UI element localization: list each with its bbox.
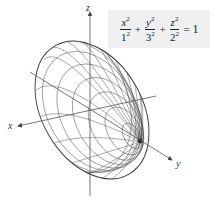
term-z: z2 22 bbox=[170, 16, 180, 42]
equals-sign: = bbox=[183, 23, 189, 35]
y-axis bbox=[30, 72, 172, 160]
y-axis-label: y bbox=[176, 158, 180, 169]
z-axis-label: z bbox=[86, 2, 90, 13]
x-axis-label: x bbox=[8, 120, 12, 131]
term-x: x2 12 bbox=[120, 16, 130, 42]
plus-sign: + bbox=[135, 23, 141, 35]
ellipsoid-figure: z x y x2 12 + y2 32 + z2 22 = 1 bbox=[0, 0, 214, 202]
term-y: y2 32 bbox=[145, 16, 155, 42]
plus-sign: + bbox=[159, 23, 165, 35]
equation-box: x2 12 + y2 32 + z2 22 = 1 bbox=[108, 10, 210, 48]
equation-rhs: 1 bbox=[193, 22, 199, 37]
